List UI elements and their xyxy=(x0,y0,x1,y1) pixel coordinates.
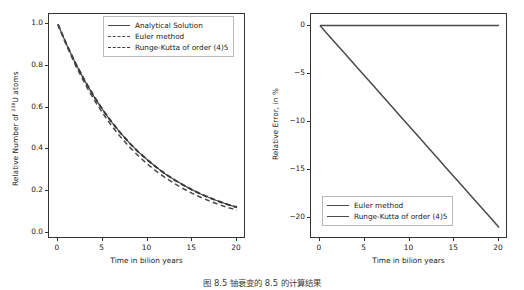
x-axis-label-right: Time in bilion years xyxy=(310,256,507,265)
x-tick-label: 10 xyxy=(397,243,421,252)
x-tick-label: 5 xyxy=(90,243,114,252)
panel-decay: Relative Number of 238U atoms 0.00.20.40… xyxy=(0,0,262,276)
y-tick-label: 0.2 xyxy=(9,185,43,194)
y-tick-label: −20 xyxy=(271,212,305,221)
legend-error[interactable]: Euler method Runge-Kutta of order (4)5 xyxy=(322,196,453,226)
x-tick-label: 15 xyxy=(441,243,465,252)
x-tick-label: 20 xyxy=(224,243,248,252)
y-tick-label: 0 xyxy=(271,20,305,29)
y-tick-label: 0.4 xyxy=(9,143,43,152)
legend-key-dashed-line-icon xyxy=(108,32,130,41)
legend-item-label: Analytical Solution xyxy=(135,21,203,30)
legend-key-dashed-line-icon xyxy=(108,43,130,52)
legend-item-label: Euler method xyxy=(135,32,184,41)
panel-error: Relative Error, in % 0−5−10−15−20 051015… xyxy=(262,0,524,276)
y-tick-label: 0.8 xyxy=(9,60,43,69)
legend-item-label: Runge-Kutta of order (4)5 xyxy=(135,43,228,52)
legend-item[interactable]: Euler method xyxy=(327,200,447,211)
y-tick-label: 0.6 xyxy=(9,102,43,111)
y-axis-label-left: Relative Number of 238U atoms xyxy=(11,71,20,186)
x-tick-label: 10 xyxy=(135,243,159,252)
x-tick-label: 15 xyxy=(179,243,203,252)
legend-item-label: Runge-Kutta of order (4)5 xyxy=(354,212,447,221)
figure: Relative Number of 238U atoms 0.00.20.40… xyxy=(0,0,524,290)
legend-item-label: Euler method xyxy=(354,201,403,210)
legend-item[interactable]: Runge-Kutta of order (4)5 xyxy=(108,42,228,53)
y-axis-label-left-suffix: U atoms xyxy=(11,71,20,102)
y-tick-label: −15 xyxy=(271,164,305,173)
x-tick-label: 0 xyxy=(307,243,331,252)
y-tick-label: 0.0 xyxy=(9,227,43,236)
y-tick-label: −10 xyxy=(271,116,305,125)
x-tick-label: 0 xyxy=(45,243,69,252)
legend-key-line-icon xyxy=(327,212,349,221)
y-tick-label: 1.0 xyxy=(9,18,43,27)
y-tick-label: −5 xyxy=(271,68,305,77)
legend-key-line-icon xyxy=(327,201,349,210)
legend-decay[interactable]: Analytical Solution Euler method Runge-K… xyxy=(103,16,234,57)
x-axis-label-left: Time in bilion years xyxy=(48,256,245,265)
legend-key-line-icon xyxy=(108,21,130,30)
legend-item[interactable]: Analytical Solution xyxy=(108,20,228,31)
legend-item[interactable]: Runge-Kutta of order (4)5 xyxy=(327,211,447,222)
x-tick-label: 5 xyxy=(352,243,376,252)
figure-caption: 图 8.5 铀衰变的 8.5 的计算结果 xyxy=(0,276,524,290)
legend-item[interactable]: Euler method xyxy=(108,31,228,42)
x-tick-label: 20 xyxy=(486,243,510,252)
